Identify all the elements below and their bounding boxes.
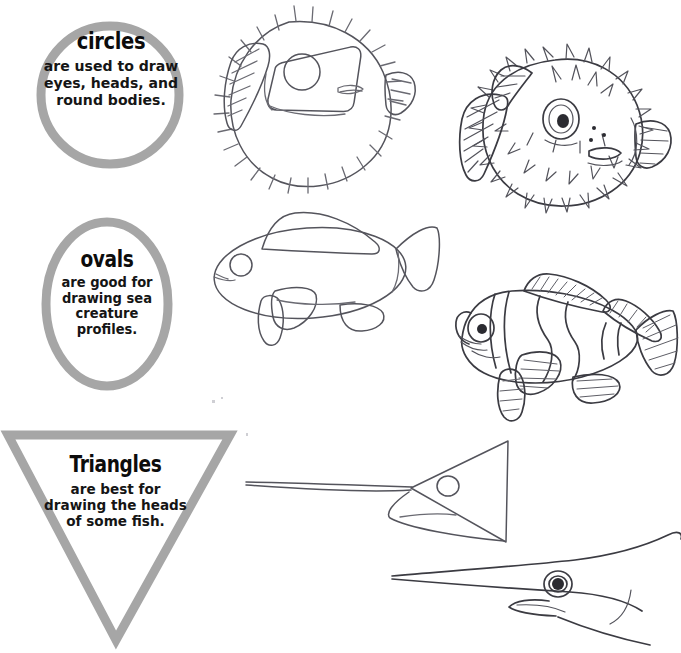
callout-triangles-body: are best for drawing the heads of some f… <box>40 481 190 530</box>
callout-circles: circles are used to draw eyes, heads, an… <box>38 32 184 108</box>
scan-speck <box>212 400 215 403</box>
callout-ovals-body: are good for drawing sea creature profil… <box>49 275 165 338</box>
worksheet-page: circles are used to draw eyes, heads, an… <box>0 0 681 653</box>
callout-circles-heading: circles <box>43 29 179 53</box>
scan-speck <box>221 397 223 399</box>
callout-ovals: ovals are good for drawing sea creature … <box>47 250 167 338</box>
callout-circles-body: are used to draw eyes, heads, and round … <box>40 58 182 108</box>
callout-ovals-heading: ovals <box>51 248 163 270</box>
scan-speck <box>246 433 248 436</box>
callout-triangles: Triangles are best for drawing the heads… <box>38 455 193 530</box>
callout-triangles-heading: Triangles <box>43 453 187 475</box>
